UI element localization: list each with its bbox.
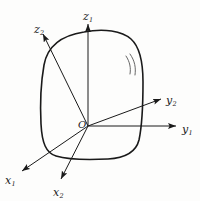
axis-label-z-1: z1 [83,7,93,24]
axis-label-y-2: y2 [166,91,177,108]
axis-label-x-1: x1 [5,171,16,188]
z-axis-2-line [43,34,88,126]
axis-label-z-2: z2 [34,20,44,37]
axis-label-y-1: y1 [182,120,193,137]
origin-label: O [78,119,86,130]
rigid-body-outline [41,30,143,159]
figure-canvas: O z1 z2 y2 y1 x1 x2 [0,0,200,201]
axis-lines [22,24,176,179]
x-axis-1-line [22,126,88,171]
surface-arc-marks [126,54,135,75]
x-axis-2-line [61,126,88,179]
y-axis-2-line [88,99,161,126]
axis-label-x-2: x2 [53,183,64,200]
